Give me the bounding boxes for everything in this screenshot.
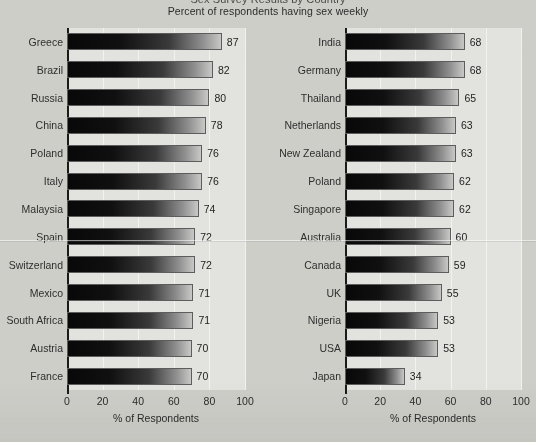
x-tick-label-80: 80 bbox=[480, 395, 492, 407]
bar bbox=[67, 173, 202, 190]
category-label: Poland bbox=[0, 147, 63, 159]
category-label: UK bbox=[211, 287, 341, 299]
bar bbox=[345, 368, 405, 385]
bar-row: India68 bbox=[268, 28, 536, 56]
bar-row: Singapore62 bbox=[268, 195, 536, 223]
x-tick-label-20: 20 bbox=[97, 395, 109, 407]
category-label: Poland bbox=[211, 175, 341, 187]
bar bbox=[345, 61, 465, 78]
chart-panel-right: India68Germany68Thailand65Netherlands63N… bbox=[268, 28, 536, 390]
x-axis-title: % of Respondents bbox=[390, 412, 476, 424]
bar bbox=[345, 145, 456, 162]
bar-value-label: 65 bbox=[459, 92, 476, 104]
category-label: Germany bbox=[211, 64, 341, 76]
bar bbox=[345, 89, 459, 106]
x-tick-label-100: 100 bbox=[236, 395, 254, 407]
bar bbox=[67, 145, 202, 162]
bar bbox=[67, 284, 193, 301]
bar-row: Japan34 bbox=[268, 362, 536, 390]
bar-track: 68 bbox=[345, 33, 521, 50]
category-label: Mexico bbox=[0, 287, 63, 299]
bar-track: 53 bbox=[345, 312, 521, 329]
bar bbox=[67, 89, 209, 106]
category-label: Brazil bbox=[0, 64, 63, 76]
category-label: Italy bbox=[0, 175, 63, 187]
bar bbox=[345, 228, 451, 245]
category-label: Nigeria bbox=[211, 314, 341, 326]
category-label: Austria bbox=[0, 342, 63, 354]
x-tick-label-0: 0 bbox=[64, 395, 70, 407]
bar bbox=[67, 117, 206, 134]
bar-row: Germany68 bbox=[268, 56, 536, 84]
category-label: Australia bbox=[211, 231, 341, 243]
bar-track: 34 bbox=[345, 368, 521, 385]
x-tick-label-60: 60 bbox=[445, 395, 457, 407]
bar-value-label: 70 bbox=[192, 370, 209, 382]
category-label: Singapore bbox=[211, 203, 341, 215]
x-axis-title: % of Respondents bbox=[113, 412, 199, 424]
bar-row: Netherlands63 bbox=[268, 112, 536, 140]
bar-value-label: 62 bbox=[454, 203, 471, 215]
bar-track: 62 bbox=[345, 173, 521, 190]
bar-value-label: 55 bbox=[442, 287, 459, 299]
bar-track: 65 bbox=[345, 89, 521, 106]
bar-value-label: 72 bbox=[195, 259, 212, 271]
x-tick-label-40: 40 bbox=[132, 395, 144, 407]
bar-value-label: 53 bbox=[438, 314, 455, 326]
bar bbox=[67, 256, 195, 273]
bar bbox=[345, 173, 454, 190]
bar bbox=[67, 368, 192, 385]
x-tick-label-60: 60 bbox=[168, 395, 180, 407]
bar bbox=[67, 312, 193, 329]
bar-row: Thailand65 bbox=[268, 84, 536, 112]
bar-value-label: 63 bbox=[456, 119, 473, 131]
category-label: France bbox=[0, 370, 63, 382]
bar-value-label: 70 bbox=[192, 342, 209, 354]
bar bbox=[345, 33, 465, 50]
bar-track: 59 bbox=[345, 256, 521, 273]
category-label: Canada bbox=[211, 259, 341, 271]
bar-value-label: 62 bbox=[454, 175, 471, 187]
bar-track: 55 bbox=[345, 284, 521, 301]
category-label: Greece bbox=[0, 36, 63, 48]
category-label: India bbox=[211, 36, 341, 48]
bar-track: 60 bbox=[345, 228, 521, 245]
bar bbox=[67, 200, 199, 217]
bar bbox=[345, 340, 438, 357]
bar bbox=[345, 284, 442, 301]
chart-subtitle: Percent of respondents having sex weekly bbox=[0, 5, 536, 17]
bar bbox=[345, 312, 438, 329]
bar bbox=[67, 61, 213, 78]
bar-value-label: 53 bbox=[438, 342, 455, 354]
bar-value-label: 68 bbox=[465, 64, 482, 76]
bar-row: Canada59 bbox=[268, 251, 536, 279]
bar-track: 63 bbox=[345, 145, 521, 162]
bar-row: Australia60 bbox=[268, 223, 536, 251]
bar-row: UK55 bbox=[268, 279, 536, 307]
bar-value-label: 60 bbox=[451, 231, 468, 243]
category-label: Netherlands bbox=[211, 119, 341, 131]
category-label: Switzerland bbox=[0, 259, 63, 271]
bar-value-label: 72 bbox=[195, 231, 212, 243]
bar-value-label: 63 bbox=[456, 147, 473, 159]
bar-row: New Zealand63 bbox=[268, 139, 536, 167]
category-label: Thailand bbox=[211, 92, 341, 104]
bar bbox=[67, 33, 222, 50]
bar-rows-right: India68Germany68Thailand65Netherlands63N… bbox=[268, 28, 536, 390]
bar-value-label: 59 bbox=[449, 259, 466, 271]
bar-track: 53 bbox=[345, 340, 521, 357]
bar-track: 68 bbox=[345, 61, 521, 78]
x-tick-label-20: 20 bbox=[374, 395, 386, 407]
bar bbox=[67, 340, 192, 357]
category-label: Japan bbox=[211, 370, 341, 382]
bar-value-label: 34 bbox=[405, 370, 422, 382]
bar-value-label: 68 bbox=[465, 36, 482, 48]
bar-row: USA53 bbox=[268, 334, 536, 362]
bar-value-label: 71 bbox=[193, 314, 210, 326]
bar bbox=[345, 256, 449, 273]
bar-row: Poland62 bbox=[268, 167, 536, 195]
bar bbox=[345, 200, 454, 217]
category-label: China bbox=[0, 119, 63, 131]
category-label: Russia bbox=[0, 92, 63, 104]
bar-track: 63 bbox=[345, 117, 521, 134]
